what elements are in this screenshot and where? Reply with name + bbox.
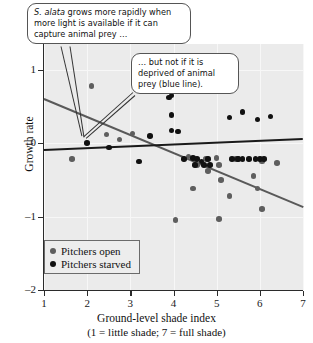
- data-point: [84, 140, 90, 146]
- data-point: [218, 177, 224, 183]
- data-point: [274, 160, 280, 166]
- data-point: [201, 162, 207, 168]
- data-point: [192, 162, 198, 168]
- legend: Pitchers open Pitchers starved: [44, 240, 140, 274]
- data-point: [261, 156, 267, 162]
- annotation-callout-2-text: … but not if it is deprived of animal pr…: [138, 57, 215, 89]
- data-point: [106, 145, 112, 151]
- gridline-vertical: [303, 44, 304, 290]
- data-point: [216, 162, 222, 168]
- x-axis-tick-label: 7: [294, 297, 312, 309]
- y-axis-tick-label: –1: [22, 210, 36, 222]
- y-axis-tick: [38, 217, 43, 218]
- data-point: [136, 159, 142, 165]
- y-axis-tick-label: 0: [22, 136, 36, 148]
- data-point: [147, 133, 153, 139]
- y-axis-tick: [38, 290, 43, 291]
- annotation-callout-light-prey: S. alata grows more rapidly when more li…: [27, 3, 191, 44]
- data-point: [251, 173, 257, 179]
- data-point: [89, 83, 95, 89]
- legend-label-open: Pitchers open: [61, 245, 121, 257]
- annotation-callout-deprived: … but not if it is deprived of animal pr…: [131, 53, 239, 94]
- x-axis-title: Ground-level shade index: [0, 312, 313, 326]
- gridline-vertical: [260, 44, 261, 290]
- y-axis-tick-label: 1: [22, 63, 36, 75]
- data-point: [259, 206, 265, 212]
- annotation-species-name: S. alata: [34, 7, 65, 17]
- x-axis-tick: [44, 291, 45, 296]
- x-axis-subtitle: (1 = little shade; 7 = full shade): [0, 326, 313, 338]
- y-axis-tick: [38, 70, 43, 71]
- legend-item-pitchers-starved: Pitchers starved: [50, 257, 131, 270]
- x-axis-tick-label: 1: [35, 297, 53, 309]
- x-axis-tick-label: 4: [165, 297, 183, 309]
- x-axis-tick-label: 6: [251, 297, 269, 309]
- data-point: [246, 156, 252, 162]
- x-axis-tick: [303, 291, 304, 296]
- data-point: [216, 216, 222, 222]
- legend-item-pitchers-open: Pitchers open: [50, 244, 131, 257]
- x-axis-tick: [130, 291, 131, 296]
- y-axis-tick-label: –2: [22, 283, 36, 295]
- data-point: [175, 129, 181, 135]
- x-axis-tick: [174, 291, 175, 296]
- data-point: [205, 168, 211, 174]
- data-point: [207, 162, 213, 168]
- data-point: [69, 156, 75, 162]
- data-point: [229, 156, 235, 162]
- x-axis-tick-label: 5: [208, 297, 226, 309]
- legend-marker-open-icon: [50, 248, 56, 254]
- data-point: [169, 112, 175, 118]
- legend-marker-starved-icon: [50, 261, 56, 267]
- data-point: [214, 155, 220, 161]
- y-axis-tick: [38, 143, 43, 144]
- figure-scatter-plot: Pitchers open Pitchers starved Growth ra…: [0, 0, 313, 343]
- data-point: [205, 156, 211, 162]
- x-axis-tick: [260, 291, 261, 296]
- x-axis-tick-label: 3: [121, 297, 139, 309]
- x-axis-tick-label: 2: [78, 297, 96, 309]
- x-axis-tick: [87, 291, 88, 296]
- legend-label-starved: Pitchers starved: [61, 258, 131, 270]
- x-axis-tick: [217, 291, 218, 296]
